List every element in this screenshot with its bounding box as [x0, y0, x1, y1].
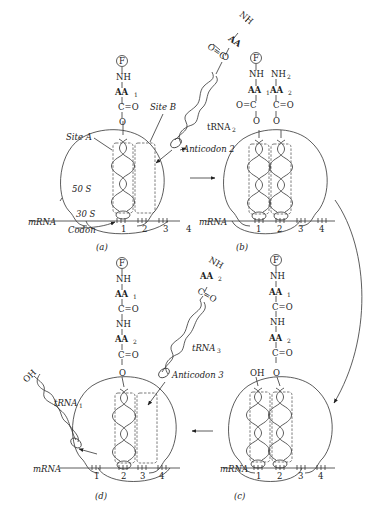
- co-label: C=O: [118, 102, 139, 112]
- oh-label-c: OH: [250, 368, 264, 378]
- nh-label: NH: [270, 271, 285, 281]
- panel-a: [30, 56, 180, 234]
- trna1-label: tRNA: [54, 398, 77, 408]
- translation-diagram: F NH AA 1 C=O O Site A Site B 50 S 30 S …: [0, 0, 380, 522]
- codon-number: 3: [140, 471, 145, 481]
- codon-number: 4: [186, 224, 191, 234]
- o-label: O: [119, 368, 126, 378]
- nh2-label: NH: [238, 9, 256, 26]
- formyl-label-d: F: [119, 258, 125, 268]
- o-label: O: [273, 368, 280, 378]
- site-b-box: [135, 143, 155, 213]
- oh-label-d: OH: [21, 367, 38, 384]
- codon-number: 3: [163, 224, 168, 234]
- site-b-label: Site B: [150, 102, 176, 112]
- codon-number: 2: [142, 224, 147, 234]
- co-label: C=O: [272, 348, 293, 358]
- panel-d-label: (d): [95, 491, 107, 501]
- nh2-label: NH: [271, 69, 286, 79]
- aa1-label: AA: [247, 85, 262, 95]
- trna3-label: tRNA: [192, 343, 215, 353]
- codon-number: 1: [121, 224, 126, 234]
- aa2-label: AA: [114, 334, 129, 344]
- aa1-sub: 1: [287, 291, 291, 298]
- aa1-sub: 1: [134, 91, 138, 98]
- oc-label: O=C: [236, 100, 257, 110]
- site-a-label: Site A: [66, 132, 92, 142]
- o-label: O: [273, 116, 280, 126]
- codon-number: 2: [277, 471, 282, 481]
- codon-number: 2: [121, 471, 126, 481]
- codon-number: 1: [256, 224, 261, 234]
- formyl-label-c: F: [273, 255, 279, 265]
- anticodon3-label: Anticodon 3: [171, 370, 224, 380]
- aa1-label: AA: [114, 87, 129, 97]
- o-label: O: [253, 116, 260, 126]
- codon-number: 3: [298, 471, 303, 481]
- nh-label: NH: [270, 317, 285, 327]
- codon-number: 3: [298, 224, 303, 234]
- nh-label: NH: [116, 274, 131, 284]
- formyl-label-b: F: [253, 53, 259, 63]
- aa2-label: AA: [199, 271, 214, 281]
- aa2-sub: 2: [133, 338, 137, 345]
- aa2-sub: 2: [288, 89, 292, 96]
- codon-number: 2: [277, 224, 282, 234]
- mrna-label-d: mRNA: [33, 464, 61, 474]
- o-label: O: [119, 117, 126, 127]
- mrna-label-c: mRNA: [220, 464, 248, 474]
- aa2-label: AA: [269, 85, 284, 95]
- co-label: C=O: [272, 302, 293, 312]
- codon-number: 4: [318, 471, 323, 481]
- aa1-label: AA: [268, 287, 283, 297]
- nh2-label: NH: [207, 255, 225, 271]
- codon-number: 4: [319, 224, 324, 234]
- aa1-label: AA: [114, 289, 129, 299]
- o-label: O: [222, 52, 229, 62]
- aa2-label: AA: [226, 33, 244, 50]
- codon-number: 1: [256, 471, 261, 481]
- co-label: C=O: [196, 286, 219, 305]
- trna2-sub: 2: [232, 126, 236, 133]
- aa2-sub: 2: [287, 337, 291, 344]
- nh-label: NH: [116, 319, 131, 329]
- panel-c-label: (c): [234, 491, 245, 501]
- co-label: C=O: [273, 100, 294, 110]
- panel-b-label: (b): [236, 242, 248, 252]
- co-label: C=O: [118, 350, 139, 360]
- trna2-label: tRNA: [207, 122, 231, 132]
- mrna-label-a: mRNA: [28, 217, 56, 227]
- nh-label: NH: [116, 72, 131, 82]
- codon-number: 1: [94, 471, 99, 481]
- nh2-sub: 2: [287, 73, 291, 80]
- anticodon2-label: Anticodon 2: [182, 144, 235, 154]
- aa1-sub: 1: [133, 293, 137, 300]
- co-label: C=O: [118, 304, 139, 314]
- aa2-label: AA: [268, 333, 283, 343]
- 30s-label: 30 S: [76, 209, 96, 219]
- trna3-sub: 3: [217, 347, 221, 354]
- mrna-label-b: mRNA: [199, 217, 227, 227]
- trna1-sub: 1: [79, 402, 83, 409]
- codon-number: 4: [159, 471, 164, 481]
- panel-a-label: (a): [96, 242, 108, 252]
- arrow-b-to-c: [334, 200, 362, 403]
- 50s-label: 50 S: [72, 184, 92, 194]
- nh-label: NH: [249, 69, 264, 79]
- aa2-sub: 2: [218, 275, 222, 282]
- formyl-label-a: F: [119, 56, 125, 66]
- codon-label: Codon: [68, 225, 96, 235]
